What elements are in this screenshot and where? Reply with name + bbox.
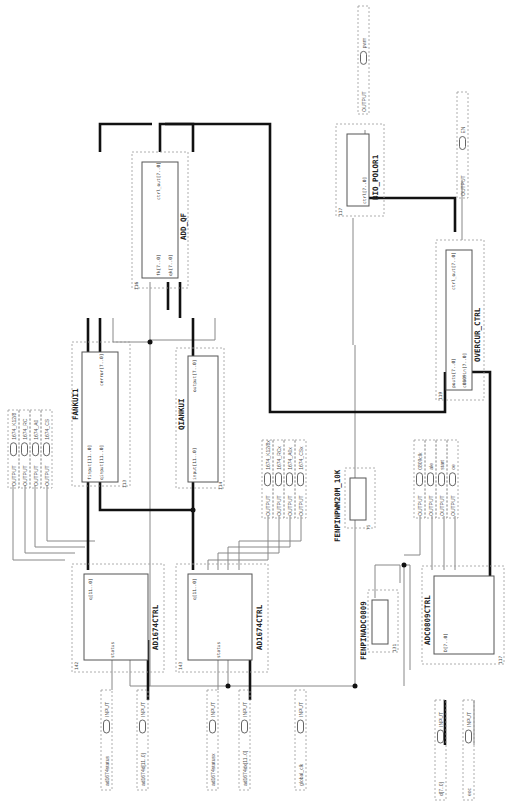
output-pin[interactable]: 1674_A0OUTPUT: [30, 410, 41, 488]
input-pin-label: ad1674dx[11..0]: [242, 750, 248, 786]
input-pins: ad1674statusINPUTad1674d[11..0]INPUTad16…: [101, 690, 474, 800]
input-pin[interactable]: ad1674d[11..0]INPUT: [137, 690, 148, 790]
output-type-label: OUTPUT: [11, 465, 17, 486]
block-fankui1[interactable]: FANKUI1 113 finput[11..0] qinput[11..0] …: [71, 342, 130, 488]
port-label: fk[7..0]: [156, 254, 161, 276]
wire-out1: [13, 485, 65, 560]
output-pin[interactable]: 1674_A0xOUTPUT: [284, 440, 295, 518]
output-pin-label: oe: [450, 464, 456, 470]
junction: [402, 563, 407, 568]
input-pin-label: eoc: [466, 787, 472, 796]
output-type-label: OUTPUT: [460, 175, 466, 196]
port-label: ctrl[7..0]: [362, 177, 367, 204]
junction: [353, 684, 358, 689]
port-label: status: [216, 641, 221, 658]
bus-fankui-out: [100, 124, 152, 152]
output-pin-label: EN: [460, 126, 466, 133]
output-pin[interactable]: 1674_RCxOUTPUT: [273, 440, 284, 518]
output-type-label: OUTPUT: [298, 495, 304, 516]
input-pin[interactable]: ad1674statusxINPUT: [207, 690, 218, 790]
block-overcur-ctrl[interactable]: OVERCUR_CTRL 119 pouts[7..0] c0809in[7..…: [436, 240, 484, 400]
output-type-label: OUTPUT: [450, 495, 456, 516]
block-title: ADC0809CTRL: [423, 595, 432, 645]
output-pin[interactable]: 1674_CSxOUTPUT: [295, 440, 306, 518]
bus-qiankui-out: [165, 124, 193, 152]
block-ad1674ctrl-143[interactable]: AD1674CTRL 143 q[11..0] status: [176, 564, 268, 672]
instance-id: 142: [74, 662, 79, 670]
instance-id: 75: [366, 524, 371, 530]
input-pin-label: global_clk: [298, 763, 304, 786]
instance-id: 117: [338, 208, 343, 216]
block-adc0809ctrl[interactable]: ADC0809CTRL 117 D[7..0]: [422, 566, 504, 664]
output-pin-label: 1674_K12/8: [11, 413, 17, 440]
instance-id: 114: [218, 482, 223, 490]
port-label: D[7..0]: [443, 633, 448, 652]
block-title: FENPINPWM20M_10K: [333, 469, 342, 542]
port-label: qinput[11..0]: [99, 445, 104, 480]
port-label: cerror[7..0]: [99, 353, 104, 386]
output-pin[interactable]: aleOUTPUT: [425, 440, 436, 518]
output-pin[interactable]: oeOUTPUT: [447, 440, 458, 518]
port-label: qk[7..0]: [168, 254, 173, 276]
output-pin[interactable]: startOUTPUT: [436, 440, 447, 518]
input-pin-label: ad1674statusx: [210, 753, 216, 786]
instance-id: 117: [498, 656, 503, 664]
output-type-label: OUTPUT: [44, 465, 50, 486]
block-title: FANKUI1: [71, 388, 80, 420]
output-type-label: OUTPUT: [361, 91, 367, 112]
output-pin-label: 1674_K12/8x: [265, 440, 271, 470]
port-label: c0809in[7..0]: [462, 353, 467, 388]
output-type-label: OUTPUT: [265, 495, 271, 516]
output-type-label: OUTPUT: [276, 495, 282, 516]
output-pin[interactable]: pwmOUTPUT: [358, 6, 369, 114]
wire-out8: [239, 516, 301, 570]
instance-id: 116: [134, 282, 139, 290]
output-pin[interactable]: 1674_K12/8OUTPUT: [8, 410, 19, 488]
block-bio-polor1[interactable]: BIO_POLOR1 117 ctrl[7..0]: [336, 124, 384, 216]
output-type-label: OUTPUT: [417, 495, 423, 516]
output-type-label: OUTPUT: [22, 465, 28, 486]
input-pin[interactable]: global_clkINPUT: [295, 690, 306, 790]
block-title: FENPINADC0809: [359, 601, 368, 660]
wire-out9: [404, 516, 420, 555]
block-qiankui[interactable]: QIANKUI 114 input[11..0] output[7..0]: [176, 348, 224, 490]
input-pin[interactable]: ad1674statusINPUT: [101, 690, 112, 790]
instance-id: 131: [392, 644, 397, 652]
block-fenpinpwm20m-10k[interactable]: FENPINPWM20M_10K 75: [333, 468, 375, 542]
output-pin[interactable]: 1674_CSOUTPUT: [41, 410, 52, 488]
output-pin[interactable]: 1674_RCOUTPUT: [19, 410, 30, 488]
output-pin-label: 0809clk: [417, 452, 423, 470]
block-title: QIANKUI: [177, 398, 186, 430]
input-type-label: INPUT: [438, 712, 444, 727]
bus-adc-q: [470, 372, 490, 580]
input-pin-label: ad1674status: [104, 755, 110, 786]
output-pin[interactable]: 1674_K12/8xOUTPUT: [262, 440, 273, 518]
output-pin-label: 1674_RCx: [276, 446, 282, 470]
instance-id: 143: [178, 662, 183, 670]
input-type-label: INPUT: [466, 712, 472, 727]
block-add-qf[interactable]: ADD_QF 116 fk[7..0] qk[7..0] ctrl_out[7.…: [132, 152, 188, 290]
port-label: pouts[7..0]: [451, 358, 456, 388]
wire-clk-fankui: [113, 318, 150, 342]
output-type-label: OUTPUT: [33, 465, 39, 486]
wire-out6: [218, 516, 279, 570]
instance-id: 113: [122, 480, 127, 488]
port-label: finput[11..0]: [87, 445, 92, 480]
output-pin-label: 1674_A0x: [287, 447, 293, 470]
output-pin[interactable]: 0809clkOUTPUT: [414, 440, 425, 518]
output-pin-label: 1674_CSx: [298, 446, 304, 470]
wire-adc-clk: [404, 565, 410, 686]
output-pin-groups: 1674_K12/8OUTPUT1674_RCOUTPUT1674_A0OUTP…: [8, 6, 468, 518]
wire-out7: [228, 516, 290, 570]
port-label: status: [110, 641, 115, 658]
block-title: AD1674CTRL: [255, 604, 264, 650]
wire-fenpinadc: [375, 565, 400, 598]
port-label: q[11..0]: [88, 578, 93, 600]
input-pin[interactable]: eocINPUT: [463, 700, 474, 800]
block-fenpinadc0809[interactable]: FENPINADC0809 131: [359, 590, 398, 660]
input-type-label: INPUT: [210, 702, 216, 717]
block-title: BIO_POLOR1: [371, 154, 380, 200]
input-pin[interactable]: ad1674dx[11..0]INPUT: [239, 690, 250, 790]
block-title: OVERCUR_CTRL: [473, 307, 482, 362]
output-pin[interactable]: ENOUTPUT: [457, 92, 468, 198]
